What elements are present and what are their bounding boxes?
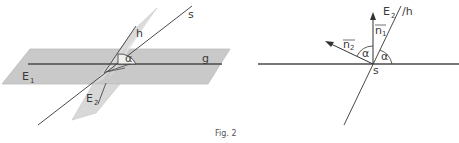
angle-alpha-1: α (362, 47, 369, 60)
normal-n1-sub: 1 (382, 30, 386, 38)
angle-label-alpha: α (125, 52, 132, 65)
plane-e2-sub-right: 2 (391, 12, 395, 20)
line-g-label: g (202, 52, 209, 65)
left-diagram: α h s g E 1 E 2 (2, 6, 230, 125)
angle-alpha-2: α (381, 50, 388, 63)
plane-e1-label: E (22, 70, 29, 83)
line-h-label: h (136, 27, 143, 40)
plane-e1-sub: 1 (30, 77, 34, 85)
normal-n2-sub: 2 (350, 44, 354, 52)
figure-caption: Fig. 2 (215, 129, 237, 138)
plane-e2-label-right: E (383, 5, 390, 18)
figure-canvas: α h s g E 1 E 2 Fig. 2 α α s n 1 n 2 (0, 0, 459, 143)
line-h-label-right: /h (402, 5, 413, 18)
normal-n1-arrowhead (370, 12, 376, 20)
line-s-label: s (188, 8, 194, 21)
plane-e2-sub: 2 (94, 99, 98, 107)
normal-n1-label: n (375, 24, 382, 37)
plane-e2-label: E (86, 92, 93, 105)
normal-n2-arrowhead (325, 41, 334, 47)
point-s-label: s (373, 64, 379, 77)
right-diagram: α α s n 1 n 2 E 2 /h (258, 5, 459, 125)
